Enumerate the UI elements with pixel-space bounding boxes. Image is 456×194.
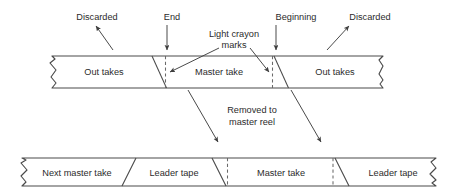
bottom-segment-label-next-master-take: Next master take — [42, 168, 111, 178]
annotation-end: End — [164, 12, 180, 22]
annotation-removed-to-master-reel-line2: master reel — [229, 117, 275, 127]
annotation-light-crayon-marks-line2: marks — [221, 40, 246, 50]
annotation-discarded-right: Discarded — [349, 12, 390, 22]
top-tape-strip: Out takes Master take Out takes — [50, 56, 383, 88]
bottom-tape-strip: Next master take Leader tape Master take… — [21, 158, 436, 186]
annotation-removed-to-master-reel-line1: Removed to — [227, 105, 277, 115]
transfer-arrow-right — [291, 90, 321, 142]
transfer-arrow-left — [188, 90, 218, 142]
diagram-canvas: Out takes Master take Out takes Discarde… — [0, 0, 456, 194]
top-segment-label-master-take: Master take — [195, 67, 243, 77]
annotation-discarded-left: Discarded — [76, 12, 117, 22]
top-segment-label-out-takes-right: Out takes — [315, 67, 355, 77]
tape-editing-diagram: Out takes Master take Out takes Discarde… — [0, 0, 456, 194]
transfer-annotations: Removed to master reel — [188, 90, 321, 142]
annotation-beginning: Beginning — [276, 12, 317, 22]
leader-discarded-right — [327, 26, 349, 50]
bottom-segment-label-master-take: Master take — [257, 168, 305, 178]
top-segment-label-out-takes-left: Out takes — [84, 67, 124, 77]
bottom-segment-label-leader-tape-left: Leader tape — [149, 168, 198, 178]
bottom-segment-label-leader-tape-right: Leader tape — [368, 168, 417, 178]
leader-discarded-left — [96, 26, 113, 50]
annotation-light-crayon-marks-line1: Light crayon — [209, 29, 259, 39]
